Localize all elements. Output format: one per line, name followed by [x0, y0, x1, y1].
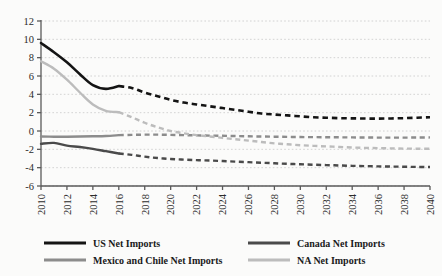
x-tick-label: 2034 — [347, 193, 358, 215]
y-tick-label: 6 — [29, 71, 34, 82]
legend-label: NA Net Imports — [297, 255, 365, 266]
x-tick-label: 2024 — [217, 193, 228, 215]
legend-item[interactable]: Canada Net Imports — [248, 238, 385, 249]
net-imports-line-chart: 121086420-2-4-6 201020122014201620182020… — [0, 0, 442, 276]
legend-item[interactable]: NA Net Imports — [248, 255, 365, 266]
series-history-line — [41, 135, 119, 137]
x-tick-label: 2022 — [191, 194, 202, 215]
x-tick-label: 2030 — [295, 194, 306, 215]
x-tick-label: 2018 — [140, 194, 151, 215]
y-tick-label: 10 — [24, 34, 35, 45]
series-mexico-and-chile-net-imports — [41, 135, 430, 138]
series-forecast-line — [119, 153, 430, 167]
x-tick-label: 2012 — [62, 194, 73, 215]
chart-page: 121086420-2-4-6 201020122014201620182020… — [0, 0, 442, 276]
x-tick-label: 2026 — [243, 194, 254, 215]
y-tick-label: 8 — [29, 52, 34, 63]
legend-item[interactable]: US Net Imports — [44, 238, 160, 249]
x-tick-label: 2014 — [88, 193, 99, 215]
chart-legend: US Net ImportsCanada Net ImportsMexico a… — [44, 238, 385, 266]
series-history-line — [41, 143, 119, 154]
y-tick-label: 2 — [29, 107, 34, 118]
series-canada-net-imports — [41, 143, 430, 167]
series-history-line — [41, 61, 119, 112]
legend-label: Canada Net Imports — [297, 238, 385, 249]
x-tick-label: 2010 — [36, 194, 47, 215]
x-tick-label: 2016 — [114, 194, 125, 215]
x-tick-label: 2020 — [165, 194, 176, 215]
series-forecast-line — [119, 135, 430, 138]
y-tick-label: 4 — [29, 89, 35, 100]
y-axis — [37, 20, 41, 186]
y-tick-label: -6 — [25, 181, 34, 192]
x-tick-label: 2032 — [321, 194, 332, 215]
y-tick-label: 0 — [29, 126, 34, 137]
y-tick-label: 12 — [24, 16, 35, 27]
legend-label: Mexico and Chile Net Imports — [93, 255, 223, 266]
grid-lines — [41, 21, 430, 186]
x-tick-label: 2028 — [269, 194, 280, 215]
x-tick-label: 2040 — [425, 194, 436, 215]
series-history-line — [41, 43, 119, 89]
data-series — [41, 43, 430, 167]
legend-label: US Net Imports — [93, 238, 160, 249]
x-tick-label: 2038 — [399, 194, 410, 215]
y-tick-label: -4 — [25, 162, 34, 173]
y-tick-labels: 121086420-2-4-6 — [24, 16, 35, 192]
series-forecast-line — [119, 86, 430, 119]
x-tick-label: 2036 — [373, 194, 384, 215]
y-tick-label: -2 — [25, 144, 34, 155]
x-tick-labels: 2010201220142016201820202022202420262028… — [36, 193, 436, 215]
legend-item[interactable]: Mexico and Chile Net Imports — [44, 255, 223, 266]
x-axis — [41, 186, 430, 190]
